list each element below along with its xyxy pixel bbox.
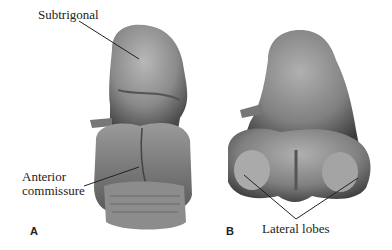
- label-subtrigonal: Subtrigonal: [38, 8, 99, 22]
- label-commissure: commissure: [22, 184, 85, 198]
- panel-label-a: A: [30, 225, 38, 237]
- specimen-illustrations: [0, 0, 392, 250]
- panel-label-b: B: [226, 225, 234, 237]
- specimen-a: [90, 25, 192, 230]
- specimen-b: [228, 30, 371, 202]
- label-anterior: Anterior: [22, 170, 66, 184]
- label-lateral-lobes: Lateral lobes: [262, 222, 330, 236]
- anatomy-figure: Subtrigonal Anterior commissure Lateral …: [0, 0, 392, 250]
